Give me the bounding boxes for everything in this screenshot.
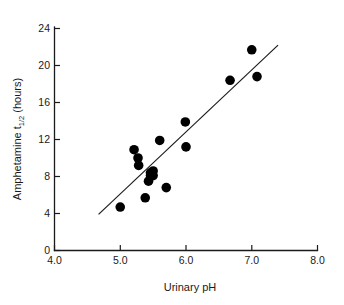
x-tick-label-7: 7.0: [244, 254, 259, 266]
data-point: [161, 183, 171, 193]
y-axis-title-tail: (hours): [11, 78, 23, 116]
y-axis-title-subscript: 1/2: [17, 116, 26, 126]
data-point: [155, 136, 165, 146]
data-point: [247, 45, 257, 55]
chart-canvas: 0 4 8 12 16 20 24 4.0 5.0 6.0 7.0 8.0 Ur…: [0, 0, 344, 305]
x-tick-label-8: 8.0: [310, 254, 325, 266]
data-point: [181, 142, 191, 152]
data-point: [181, 117, 191, 127]
y-axis-ticks: [55, 29, 61, 251]
svg-text:Amphetamine t1/2 (hours): Amphetamine t1/2 (hours): [11, 78, 26, 200]
x-tick-label-4: 4.0: [47, 254, 62, 266]
scatter-plot-figure: 0 4 8 12 16 20 24 4.0 5.0 6.0 7.0 8.0 Ur…: [0, 0, 344, 305]
x-axis-ticks: [55, 245, 318, 251]
y-axis-tick-labels: 0 4 8 12 16 20 24: [38, 22, 50, 256]
y-axis-title: Amphetamine t1/2 (hours): [11, 78, 26, 200]
y-tick-label-8: 8: [44, 170, 50, 182]
data-point: [146, 171, 156, 181]
y-tick-label-20: 20: [38, 59, 50, 71]
x-tick-label-5: 5.0: [113, 254, 128, 266]
y-tick-label-16: 16: [38, 96, 50, 108]
data-point: [225, 76, 235, 86]
data-point: [115, 202, 125, 212]
data-points-layer: [115, 45, 261, 212]
data-point: [140, 193, 150, 203]
regression-line: [99, 45, 278, 214]
y-tick-label-24: 24: [38, 22, 50, 34]
data-point: [252, 72, 262, 82]
x-axis-title: Urinary pH: [164, 281, 217, 293]
y-tick-label-4: 4: [44, 207, 50, 219]
y-tick-label-12: 12: [38, 133, 50, 145]
data-point: [129, 145, 139, 155]
x-axis-tick-labels: 4.0 5.0 6.0 7.0 8.0: [47, 254, 325, 266]
x-tick-label-6: 6.0: [179, 254, 194, 266]
y-axis-title-main: Amphetamine t: [11, 126, 23, 200]
data-point: [134, 161, 144, 171]
